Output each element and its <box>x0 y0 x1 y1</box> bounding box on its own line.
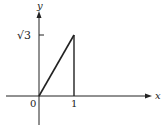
y-axis-arrow-icon <box>37 11 42 18</box>
graph: y x 0 1 √3 <box>0 0 161 128</box>
x-axis-label: x <box>155 90 161 101</box>
x-tick-label-1: 1 <box>71 98 77 109</box>
diagonal-segment <box>39 35 74 96</box>
y-tick-label-sqrt3: √3 <box>17 29 31 42</box>
x-axis-arrow-icon <box>145 94 152 99</box>
y-axis-label: y <box>36 0 43 11</box>
origin-label: 0 <box>30 98 36 109</box>
